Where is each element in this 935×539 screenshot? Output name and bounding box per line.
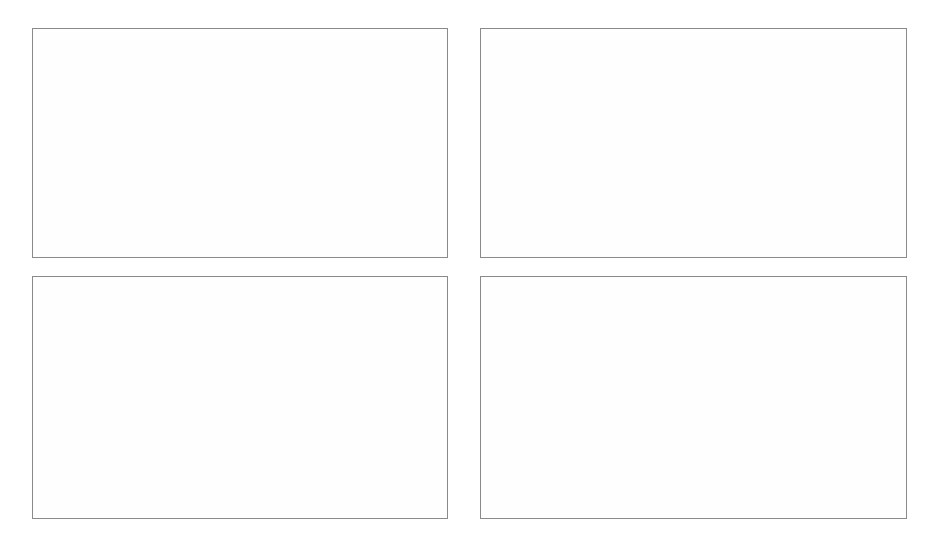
- panel-d-frame: [480, 276, 908, 520]
- panel-b-frame: [32, 276, 448, 520]
- panel-c-plot: [481, 29, 907, 257]
- panel-a-letter: [44, 222, 84, 266]
- panel-b-plot: [33, 277, 447, 519]
- panel-c-frame: [480, 28, 908, 258]
- panel-d-letter: [494, 483, 534, 527]
- panel-c: [468, 0, 935, 270]
- panel-a-plot: [33, 29, 447, 257]
- panel-d-plot: [481, 277, 907, 519]
- panel-b: [0, 270, 468, 539]
- figure-panel-grid: [0, 0, 935, 539]
- panel-a: [0, 0, 468, 270]
- panel-d: [468, 270, 935, 539]
- panel-a-frame: [32, 28, 448, 258]
- panel-c-letter: [494, 222, 534, 266]
- panel-b-letter: [44, 483, 84, 527]
